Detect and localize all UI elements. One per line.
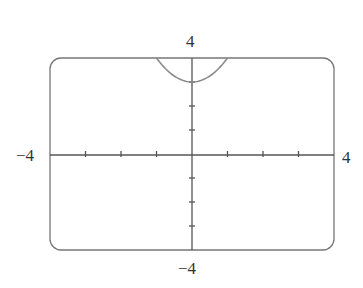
x-min-label: −4 xyxy=(16,147,34,164)
x-max-label: 4 xyxy=(342,149,351,166)
chart-canvas xyxy=(0,0,363,288)
y-min-label: −4 xyxy=(178,260,196,277)
y-max-label: 4 xyxy=(186,33,195,50)
